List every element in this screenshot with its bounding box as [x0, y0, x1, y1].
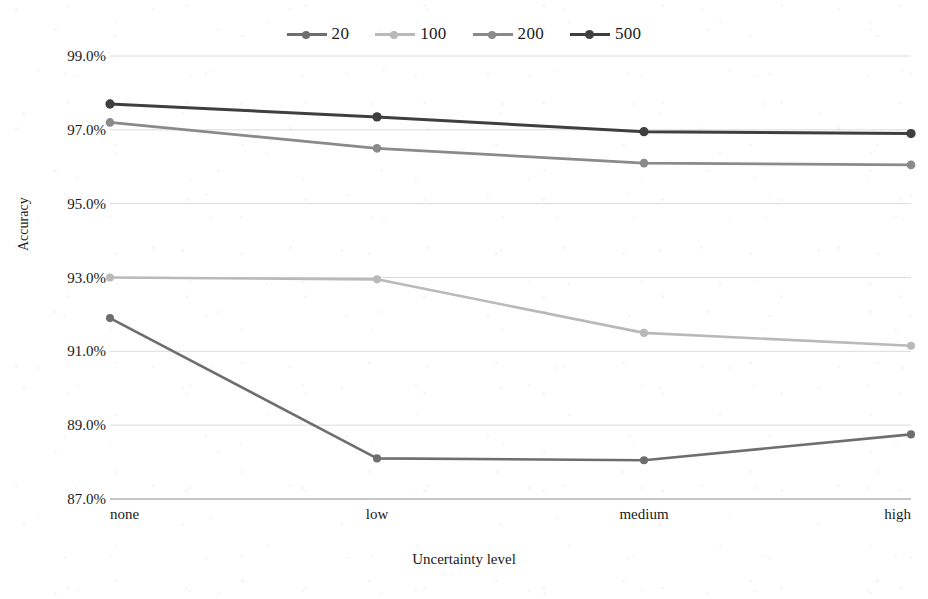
y-axis-title: Accuracy — [16, 231, 32, 251]
data-point-500-none — [105, 99, 114, 108]
x-tick-label-high: high — [884, 506, 911, 523]
y-tick-label: 91.0% — [42, 343, 106, 360]
series-line-500 — [110, 104, 911, 134]
x-tick-label-none: none — [110, 506, 139, 523]
line-chart: 20 100 200 500 99.0%97.0%95.0%93 — [0, 0, 928, 599]
data-point-20-medium — [640, 456, 648, 464]
data-point-200-medium — [640, 159, 649, 168]
data-point-100-low — [373, 275, 381, 283]
series-line-200 — [110, 122, 911, 164]
data-point-200-high — [907, 161, 916, 170]
data-point-100-none — [106, 273, 114, 281]
data-point-100-high — [907, 342, 915, 350]
data-point-100-medium — [640, 329, 648, 337]
data-point-500-medium — [639, 127, 648, 136]
x-tick-label-low: low — [366, 506, 389, 523]
series-line-100 — [110, 278, 911, 346]
data-point-200-low — [373, 144, 382, 153]
x-tick-label-medium: medium — [619, 506, 668, 523]
data-point-200-none — [106, 118, 115, 127]
data-point-20-low — [373, 454, 381, 462]
plot-area — [0, 0, 928, 599]
y-tick-label: 99.0% — [42, 48, 106, 65]
y-tick-label: 97.0% — [42, 121, 106, 138]
y-tick-label: 89.0% — [42, 417, 106, 434]
y-tick-label: 93.0% — [42, 269, 106, 286]
y-tick-label: 95.0% — [42, 195, 106, 212]
data-point-20-high — [907, 430, 915, 438]
x-axis-title: Uncertainty level — [0, 551, 928, 568]
data-point-500-high — [906, 129, 915, 138]
data-point-20-none — [106, 314, 114, 322]
y-tick-label: 87.0% — [42, 491, 106, 508]
data-point-500-low — [372, 112, 381, 121]
